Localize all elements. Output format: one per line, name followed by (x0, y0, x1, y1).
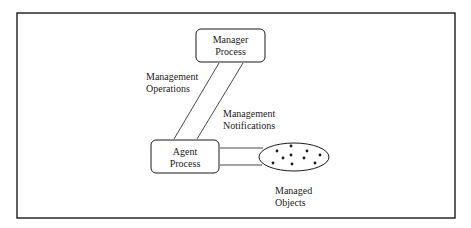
management-operations-label-line1: Management (146, 71, 198, 82)
managed-object-dot (282, 157, 285, 160)
snmp-architecture-diagram: Manager Process Management Operations Ma… (0, 0, 471, 228)
managed-object-dot (303, 157, 306, 160)
manager-process-node: Manager Process (196, 29, 265, 62)
managed-object-dot (276, 150, 279, 153)
agent-process-node: Agent Process (151, 140, 219, 173)
management-notifications-label-line2: Notifications (223, 120, 275, 131)
managed-object-dot (272, 162, 275, 165)
agent-process-label-line2: Process (170, 158, 201, 169)
managed-object-dot (291, 163, 294, 166)
managed-object-dot (319, 154, 322, 157)
manager-process-label-line2: Process (215, 46, 246, 57)
managed-object-dot (306, 150, 309, 153)
managed-objects-label-line2: Objects (275, 197, 306, 208)
managed-object-dot (290, 154, 293, 157)
management-notifications-label-line1: Management (223, 108, 275, 119)
managed-object-dot (314, 162, 317, 165)
managed-objects-node (259, 143, 329, 171)
manager-process-label-line1: Manager (213, 34, 249, 45)
managed-object-dot (290, 145, 293, 148)
managed-objects-ellipse (259, 143, 329, 171)
managed-objects-label-line1: Managed (275, 185, 312, 196)
agent-process-label-line1: Agent (173, 146, 198, 157)
management-operations-label-line2: Operations (146, 83, 190, 94)
